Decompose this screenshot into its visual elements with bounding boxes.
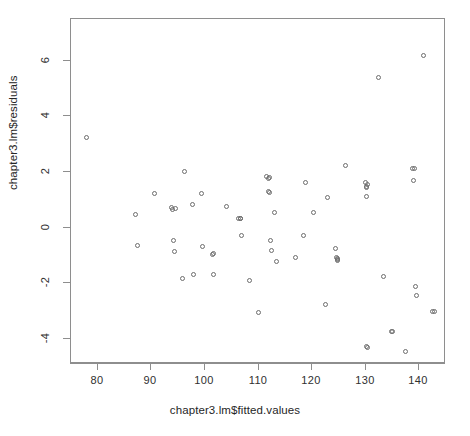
y-tick <box>63 338 70 339</box>
y-axis-label: chapter3.lm$residuals <box>7 75 19 190</box>
x-tick-label: 130 <box>345 374 385 386</box>
x-tick <box>365 363 366 370</box>
x-tick-label: 80 <box>77 374 117 386</box>
x-tick <box>418 363 419 370</box>
r-plot-screenshot: 8090100110120130140 -4-20246 chapter3.lm… <box>0 0 470 436</box>
x-tick <box>204 363 205 370</box>
y-tick-label: 0 <box>39 210 53 244</box>
x-tick-label: 120 <box>291 374 331 386</box>
y-tick <box>63 60 70 61</box>
y-tick <box>63 282 70 283</box>
y-tick-label: -4 <box>39 321 53 355</box>
x-tick <box>258 363 259 370</box>
plot-frame <box>70 18 445 363</box>
x-tick <box>150 363 151 370</box>
x-tick-label: 140 <box>398 374 438 386</box>
x-tick <box>97 363 98 370</box>
x-tick <box>311 363 312 370</box>
y-tick-label: 2 <box>39 154 53 188</box>
y-tick <box>63 227 70 228</box>
y-tick-label: 4 <box>39 98 53 132</box>
x-tick-label: 90 <box>130 374 170 386</box>
y-axis-line <box>70 18 71 363</box>
y-tick-label: -2 <box>39 265 53 299</box>
x-axis-label: chapter3.lm$fitted.values <box>0 404 470 416</box>
y-tick-label: 6 <box>39 43 53 77</box>
y-tick <box>63 171 70 172</box>
x-tick-label: 110 <box>238 374 278 386</box>
y-tick <box>63 115 70 116</box>
x-tick-label: 100 <box>184 374 224 386</box>
